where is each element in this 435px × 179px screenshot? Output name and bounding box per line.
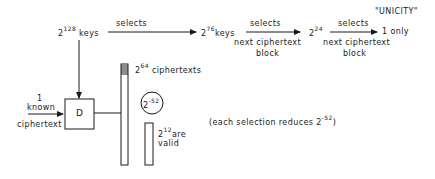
known-line3: ciphertext: [17, 121, 62, 129]
edge2-sub1: next ciphertext: [234, 39, 301, 47]
known-line2: known: [27, 104, 55, 112]
decrypt-label: D: [76, 109, 83, 118]
node-keys128: 2128 keys: [58, 27, 99, 38]
selection-note: (each selection reduces 2-52): [209, 116, 336, 127]
edge3-sub2: block: [343, 50, 366, 58]
edge2-label: selects: [250, 20, 281, 28]
node-probability: 2-52: [143, 99, 160, 110]
valid-base: 2: [158, 130, 164, 139]
node-ciphertexts: 264 ciphertexts: [135, 64, 201, 75]
note-base: 2: [316, 118, 322, 127]
keys24-exponent: 24: [315, 25, 323, 32]
keys76-label: keys: [215, 29, 235, 38]
ciphertexts-base: 2: [135, 66, 141, 75]
node-keys24: 224: [309, 27, 323, 38]
known-line1: 1: [37, 95, 43, 103]
valid-column: [145, 123, 153, 165]
prob-base: 2: [143, 101, 149, 110]
keys128-base: 2: [58, 29, 64, 38]
keys128-label: keys: [79, 29, 99, 38]
valid-label1: are: [172, 130, 186, 139]
unicity-label: 1 only: [382, 28, 409, 36]
keys24-base: 2: [309, 29, 315, 38]
keys76-exponent: 76: [207, 25, 215, 32]
edge3-sub1: next ciphertext: [323, 39, 390, 47]
unicity-title: "UNICITY": [375, 8, 418, 16]
note-close: ): [333, 118, 337, 127]
ciphertexts-exponent: 64: [141, 62, 149, 69]
prob-exponent: -52: [149, 97, 160, 104]
note-text: (each selection reduces: [209, 118, 316, 127]
valid-label2: valid: [158, 140, 179, 148]
keys128-exponent: 128: [64, 25, 77, 32]
ciphertexts-label: ciphertexts: [152, 66, 201, 75]
node-valid: 212are: [158, 128, 186, 139]
note-exponent: -52: [322, 114, 333, 121]
ciphertext-column: [121, 64, 128, 165]
edge3-label: selects: [338, 20, 369, 28]
edge2-sub2: block: [256, 50, 279, 58]
keys76-base: 2: [201, 29, 207, 38]
node-keys76: 276keys: [201, 27, 235, 38]
edge1-label: selects: [116, 20, 147, 28]
valid-exponent: 12: [164, 126, 172, 133]
